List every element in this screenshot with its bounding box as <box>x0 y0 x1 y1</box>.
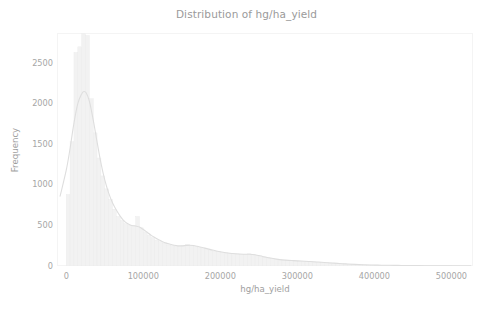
histogram-bar <box>201 249 205 266</box>
histogram-bar <box>320 262 324 266</box>
histogram-bar <box>151 238 155 266</box>
y-axis-label-text: Frequency <box>10 127 20 171</box>
histogram-bar <box>109 199 113 266</box>
plot-area <box>57 33 473 266</box>
histogram-bar <box>259 256 263 266</box>
histogram-bar <box>313 262 317 266</box>
x-axis-label: hg/ha_yield <box>57 284 473 294</box>
y-tick-label: 1000 <box>32 179 53 189</box>
x-tick-label: 300000 <box>282 271 313 281</box>
histogram-bar <box>105 189 109 266</box>
histogram-bar <box>278 260 282 266</box>
histogram-bar <box>128 225 132 266</box>
histogram-bar <box>112 209 116 266</box>
histogram-bar <box>213 251 217 266</box>
histogram-bar <box>205 249 209 266</box>
histogram-bar <box>147 235 151 266</box>
histogram-bar <box>163 243 167 266</box>
histogram-bars <box>66 34 459 266</box>
histogram-bar <box>124 224 128 266</box>
histogram-bar <box>297 261 301 266</box>
histogram-bar <box>155 240 159 266</box>
histogram-bar <box>143 232 147 266</box>
histogram-bar <box>74 52 78 266</box>
histogram-bar <box>263 257 267 266</box>
chart-figure: Distribution of hg/ha_yield Frequency 05… <box>0 0 493 309</box>
histogram-bar <box>97 158 101 266</box>
x-tick-label: 400000 <box>359 271 390 281</box>
histogram-bar <box>166 245 170 266</box>
x-tick-label: 0 <box>64 271 69 281</box>
histogram-bar <box>232 254 236 266</box>
histogram-bar <box>170 246 174 266</box>
histogram-bar <box>190 245 194 266</box>
histogram-bar <box>101 176 105 266</box>
histogram-bar <box>132 225 136 266</box>
histogram-bar <box>120 221 124 266</box>
histogram-bar <box>89 99 93 266</box>
x-tick-label: 200000 <box>205 271 236 281</box>
histogram-bar <box>240 254 244 266</box>
histogram-bar <box>267 258 271 266</box>
histogram-bar <box>243 254 247 266</box>
x-tick-label: 100000 <box>128 271 159 281</box>
histogram-bar <box>178 247 182 266</box>
histogram-bar <box>209 250 213 266</box>
y-axis-label: Frequency <box>7 33 23 266</box>
histogram-bar <box>82 34 86 266</box>
histogram-bar <box>305 262 309 266</box>
histogram-bar <box>236 254 240 266</box>
y-tick-label: 2500 <box>32 58 53 68</box>
histogram-bar <box>282 260 286 266</box>
histogram-bar <box>116 216 120 266</box>
y-tick-label: 0 <box>48 261 53 271</box>
y-axis-tick-labels: 05001000150020002500 <box>23 33 53 266</box>
histogram-bar <box>251 254 255 266</box>
y-tick-label: 1500 <box>32 139 53 149</box>
histogram-bar <box>197 248 201 266</box>
histogram-bar <box>136 216 140 266</box>
histogram-bar <box>255 255 259 266</box>
histogram-bar <box>247 254 251 266</box>
histogram-bar <box>93 133 97 266</box>
histogram-bar <box>174 246 178 266</box>
histogram-bar <box>220 252 224 266</box>
histogram-bar <box>224 253 228 266</box>
histogram-bar <box>317 262 321 266</box>
histogram-bar <box>78 47 82 266</box>
x-tick-label: 500000 <box>436 271 467 281</box>
histogram-bar <box>309 262 313 266</box>
histogram-bar <box>301 261 305 266</box>
histogram-bar <box>159 242 163 266</box>
chart-title: Distribution of hg/ha_yield <box>0 8 493 20</box>
histogram-bar <box>228 253 232 266</box>
histogram-bar <box>66 195 70 266</box>
histogram-bar <box>70 142 74 266</box>
histogram-bar <box>290 261 294 266</box>
y-tick-label: 500 <box>37 220 53 230</box>
histogram-bar <box>216 252 220 266</box>
histogram-bar <box>86 35 90 266</box>
histogram-bar <box>186 244 190 266</box>
histogram-bar <box>270 259 274 266</box>
histogram-kde-svg <box>57 33 473 266</box>
histogram-bar <box>294 261 298 266</box>
histogram-bar <box>139 228 143 266</box>
histogram-bar <box>274 259 278 266</box>
histogram-bar <box>324 263 328 266</box>
histogram-bar <box>182 246 186 266</box>
y-tick-label: 2000 <box>32 98 53 108</box>
x-axis-tick-labels: 0100000200000300000400000500000 <box>57 270 473 284</box>
histogram-bar <box>193 247 197 266</box>
histogram-bar <box>286 260 290 266</box>
